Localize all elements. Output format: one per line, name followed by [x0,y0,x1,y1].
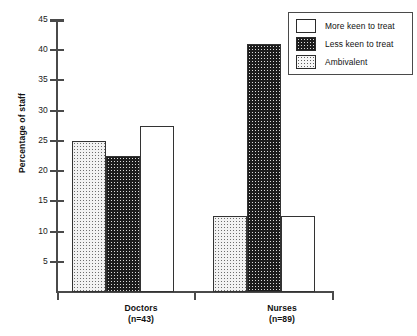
y-axis-tick [50,49,64,51]
bar-doctors-ambivalent [72,141,106,292]
y-axis-tick-label: 15 [22,196,48,205]
y-axis-tick-label: 25 [22,136,48,145]
y-axis-tick [50,170,64,172]
bar-doctors-less-keen-to-treat [106,156,140,292]
y-axis-tick-label: 40 [22,45,48,54]
y-axis-tick [50,110,64,112]
bar-doctors-more-keen-to-treat [140,126,174,292]
group-sample-size: (n=89) [222,314,342,325]
y-axis-tick [50,79,64,81]
bar-nurses-ambivalent [213,216,247,292]
x-axis-tick [332,291,334,300]
y-axis-line [56,20,58,292]
y-axis-tick [50,231,64,233]
y-axis-tick-label: 5 [22,257,48,266]
bar-nurses-less-keen-to-treat [247,44,281,292]
y-axis-tick [50,140,64,142]
y-axis-tick-label: 45 [22,15,48,24]
y-axis-tick-label: 35 [22,75,48,84]
y-axis-tick-label: 30 [22,106,48,115]
x-axis-tick [194,291,196,300]
legend-label: Ambivalent [325,57,367,67]
y-axis-tick [50,200,64,202]
legend-label: Less keen to treat [325,39,393,49]
legend-swatch-icon [296,37,316,51]
x-axis-tick [57,291,59,300]
legend-swatch-icon [296,55,316,69]
y-axis-title: Percentage of staff [17,73,27,193]
legend-swatch-icon [296,19,316,33]
y-axis-tick-label: 10 [22,227,48,236]
legend-label: More keen to treat [325,21,395,31]
y-axis-tick-label: 20 [22,166,48,175]
plot-area: Percentage of staff 51015202530354045 Do… [0,0,417,336]
x-axis-group-label-nurses: Nurses(n=89) [222,303,342,326]
bar-nurses-more-keen-to-treat [281,216,315,292]
bar-chart-figure: Percentage of staff 51015202530354045 Do… [0,0,417,336]
y-axis-tick [50,261,64,263]
legend: More keen to treatLess keen to treatAmbi… [288,12,413,75]
x-axis-group-label-doctors: Doctors(n=43) [81,303,201,326]
group-name: Nurses [267,303,297,313]
y-axis-tick [50,19,64,21]
group-sample-size: (n=43) [81,314,201,325]
group-name: Doctors [124,303,157,313]
